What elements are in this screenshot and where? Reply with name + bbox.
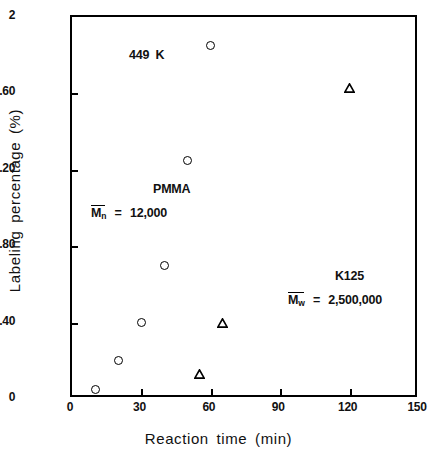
- y-tick-mark-160: [71, 93, 78, 95]
- x-tick-label-120: 120: [338, 400, 357, 414]
- data-point-triangle: [194, 369, 205, 379]
- x-tick-label-30: 30: [133, 400, 146, 414]
- overbar: [91, 205, 105, 206]
- m-symbol: M: [91, 206, 101, 220]
- y-axis-title-container: Labeling percentage (%): [0, 0, 30, 400]
- annotation-temperature: 449 K: [129, 48, 164, 62]
- m-symbol: M: [288, 293, 298, 307]
- y-tick-label-040: 0.40: [0, 314, 15, 328]
- y-tick-label-080: 0.80: [0, 237, 15, 251]
- x-axis-title: Reaction time (min): [0, 430, 437, 447]
- x-tick-mark-90: [280, 389, 282, 396]
- k125-mw-value: 2,500,000: [328, 293, 382, 307]
- y-tick-label-2: 2: [9, 8, 15, 22]
- data-point-triangle: [217, 318, 228, 328]
- y-tick-mark-120: [71, 170, 78, 172]
- x-tick-label-150: 150: [407, 400, 426, 414]
- data-point-circle: [160, 261, 169, 270]
- m-bar-symbol-w: Mw: [288, 292, 305, 307]
- y-tick-label-120: 1.20: [0, 161, 15, 175]
- y-axis-title: Labeling percentage (%): [7, 108, 24, 291]
- m-subscript: w: [298, 298, 304, 308]
- annotation-pmma-mn: Mn = 12,000: [91, 205, 167, 220]
- y-tick-mark-040: [71, 323, 78, 325]
- m-bar-symbol-n: Mn: [91, 205, 106, 220]
- data-point-circle: [91, 385, 100, 394]
- scatter-plot-figure: Labeling percentage (%) 0 0.40 0.80 1.20…: [0, 0, 437, 463]
- data-point-circle: [137, 318, 146, 327]
- plot-area: 449 K PMMA Mn = 12,000 K125 Mw = 2,500,0…: [70, 15, 417, 397]
- y-tick-mark-080: [71, 246, 78, 248]
- x-tick-mark-60: [211, 389, 213, 396]
- equals-operator: =: [115, 206, 122, 220]
- x-tick-label-0: 0: [67, 400, 73, 414]
- annotation-k125-mw: Mw = 2,500,000: [288, 292, 382, 307]
- m-subscript: n: [101, 211, 106, 221]
- overbar: [288, 292, 304, 293]
- data-point-circle: [206, 41, 215, 50]
- x-tick-mark-120: [350, 389, 352, 396]
- x-tick-label-90: 90: [272, 400, 285, 414]
- y-tick-label-160: 1.60: [0, 84, 15, 98]
- x-tick-label-60: 60: [202, 400, 215, 414]
- pmma-mn-value: 12,000: [130, 206, 167, 220]
- annotation-pmma-label: PMMA: [153, 182, 190, 196]
- x-tick-mark-30: [141, 389, 143, 396]
- annotation-k125-label: K125: [335, 269, 364, 283]
- equals-operator: =: [313, 293, 320, 307]
- data-point-triangle: [344, 83, 355, 93]
- y-tick-label-0: 0: [9, 390, 15, 404]
- data-point-circle: [183, 156, 192, 165]
- data-point-circle: [114, 356, 123, 365]
